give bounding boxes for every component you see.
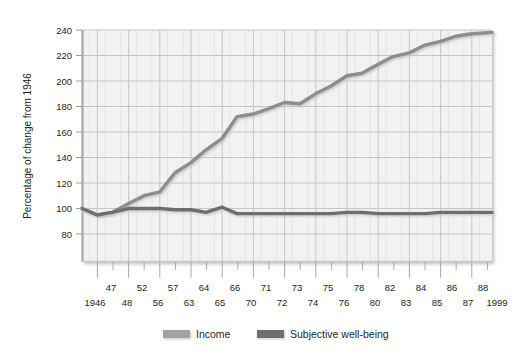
x-tick-label: 84 bbox=[416, 282, 427, 293]
x-tick-label: 1999 bbox=[486, 297, 507, 308]
x-tick-label: 87 bbox=[463, 297, 474, 308]
x-tick-label: 48 bbox=[122, 297, 133, 308]
y-axis-title: Percentage of change from 1946 bbox=[22, 73, 33, 219]
x-tick-label: 64 bbox=[199, 282, 210, 293]
x-tick-label: 76 bbox=[339, 297, 350, 308]
x-tick-label: 52 bbox=[137, 282, 148, 293]
plot-background bbox=[82, 30, 492, 262]
y-tick-label: 220 bbox=[56, 50, 72, 61]
legend-swatch-income bbox=[163, 330, 190, 338]
legend-label-subjective-well-being: Subjective well-being bbox=[290, 328, 389, 340]
legend-label-income: Income bbox=[196, 328, 231, 340]
x-tick-label: 80 bbox=[370, 297, 381, 308]
x-tick-label: 1946 bbox=[84, 297, 105, 308]
x-tick-label: 47 bbox=[106, 282, 117, 293]
y-tick-label: 160 bbox=[56, 127, 72, 138]
x-tick-label: 75 bbox=[323, 282, 334, 293]
x-tick-label: 66 bbox=[230, 282, 241, 293]
y-tick-label: 140 bbox=[56, 152, 72, 163]
x-tick-label: 71 bbox=[261, 282, 272, 293]
y-tick-label: 200 bbox=[56, 76, 72, 87]
x-tick-label: 82 bbox=[385, 282, 396, 293]
legend-swatch-subjective-well-being bbox=[257, 330, 284, 338]
x-tick-label: 73 bbox=[292, 282, 303, 293]
x-tick-label: 72 bbox=[277, 297, 288, 308]
chart-figure: 240 220 200 180 160 140 120 100 80 Perce… bbox=[0, 0, 522, 357]
y-tick-label: 120 bbox=[56, 178, 72, 189]
y-tick-label: 80 bbox=[61, 229, 72, 240]
y-tick-label: 240 bbox=[56, 25, 72, 36]
y-tick-labels: 240 220 200 180 160 140 120 100 80 bbox=[56, 25, 72, 240]
x-tick-label: 56 bbox=[153, 297, 164, 308]
x-tick-label: 74 bbox=[308, 297, 319, 308]
x-tick-label: 88 bbox=[478, 282, 489, 293]
x-tick-label: 78 bbox=[354, 282, 365, 293]
x-tick-label: 86 bbox=[447, 282, 458, 293]
y-tick-label: 100 bbox=[56, 203, 72, 214]
x-tick-label: 63 bbox=[184, 297, 195, 308]
chart-svg: 240 220 200 180 160 140 120 100 80 Perce… bbox=[0, 0, 522, 357]
plot-area bbox=[82, 30, 492, 262]
x-tick-label: 57 bbox=[168, 282, 179, 293]
y-tick-label: 180 bbox=[56, 101, 72, 112]
x-tick-label: 83 bbox=[401, 297, 412, 308]
x-tick-label: 85 bbox=[432, 297, 443, 308]
x-tick-label: 65 bbox=[215, 297, 226, 308]
x-tick-label: 70 bbox=[246, 297, 257, 308]
